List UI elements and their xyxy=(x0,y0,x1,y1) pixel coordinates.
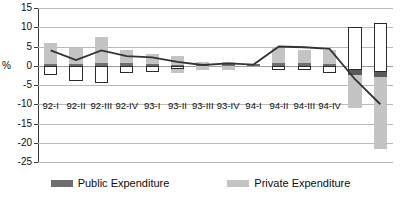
y-axis-tick-label: 10 xyxy=(0,22,32,32)
plot-area xyxy=(38,8,393,162)
legend-label: Public Expenditure xyxy=(78,177,170,189)
legend-swatch-icon xyxy=(51,180,73,187)
total-line-series xyxy=(38,8,393,162)
y-axis-tick-label: -15 xyxy=(0,119,32,129)
legend-swatch-icon xyxy=(227,180,249,187)
y-axis-tick xyxy=(34,162,38,163)
y-axis-tick-label: -20 xyxy=(0,138,32,148)
y-axis-tick-label: -5 xyxy=(0,80,32,90)
chart-legend: Public ExpenditurePrivate Expenditure xyxy=(0,172,401,194)
y-axis-tick-label: -10 xyxy=(0,99,32,109)
total-line xyxy=(51,47,381,105)
y-axis-tick-label: 15 xyxy=(0,3,32,13)
y-axis-tick-label: -25 xyxy=(0,157,32,167)
gridline xyxy=(38,162,393,163)
legend-item[interactable]: Public Expenditure xyxy=(51,177,170,189)
legend-item[interactable]: Private Expenditure xyxy=(227,177,350,189)
x-axis-tick-label: 94-IV xyxy=(311,101,349,111)
chart-container: % 151050-5-10-15-20-25 92-I92-II92-III92… xyxy=(0,0,401,199)
y-axis-tick-label: 0 xyxy=(0,61,32,71)
y-axis-tick-label: 5 xyxy=(0,42,32,52)
legend-label: Private Expenditure xyxy=(254,177,350,189)
